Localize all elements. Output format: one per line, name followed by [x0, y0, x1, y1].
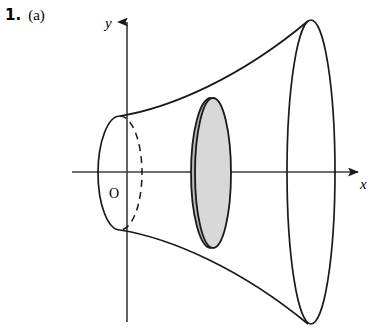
- left-rim-visible-edge: [98, 116, 120, 230]
- y-axis-label: y: [103, 15, 112, 31]
- left-rim-hidden-edge: [120, 116, 142, 230]
- x-axis-label: x: [359, 176, 367, 192]
- figure-container: 1.(a) y x: [0, 0, 375, 334]
- cross-section-disk: [195, 98, 231, 248]
- solid-of-revolution-diagram: y x O: [0, 0, 375, 334]
- origin-label: O: [109, 186, 119, 201]
